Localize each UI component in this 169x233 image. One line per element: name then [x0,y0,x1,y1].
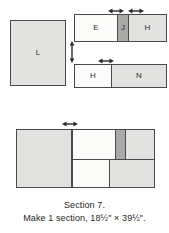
piece-j-label: J [121,24,125,32]
diagram-canvas: L E J H [0,0,169,233]
piece-h-top: H [128,14,167,42]
caption-section-dimensions: Make 1 section, 18½" × 39½". [0,213,169,223]
piece-h-lower-label: H [90,72,96,80]
piece-h-lower: H [74,64,112,88]
piece-n-label: N [136,72,142,80]
assembled-piece-e [72,129,116,160]
caption-section-title: Section 7. [0,200,169,210]
piece-h-top-label: H [145,24,151,32]
assembled-piece-h-lower [72,159,110,188]
arrow-middle-height [69,41,75,63]
piece-e: E [74,14,118,42]
assembled-piece-l [16,129,72,188]
assembled-section [16,129,154,188]
piece-e-label: E [93,24,99,32]
unit-h-n: H N [74,64,166,88]
unit-e-j-h: E J H [74,14,166,42]
arrow-assembled-width [62,121,78,127]
assembled-piece-h-top [125,129,155,160]
piece-l: L [10,20,66,86]
assembled-piece-n [109,159,155,188]
piece-l-label: L [36,49,41,57]
piece-n: N [111,64,167,88]
